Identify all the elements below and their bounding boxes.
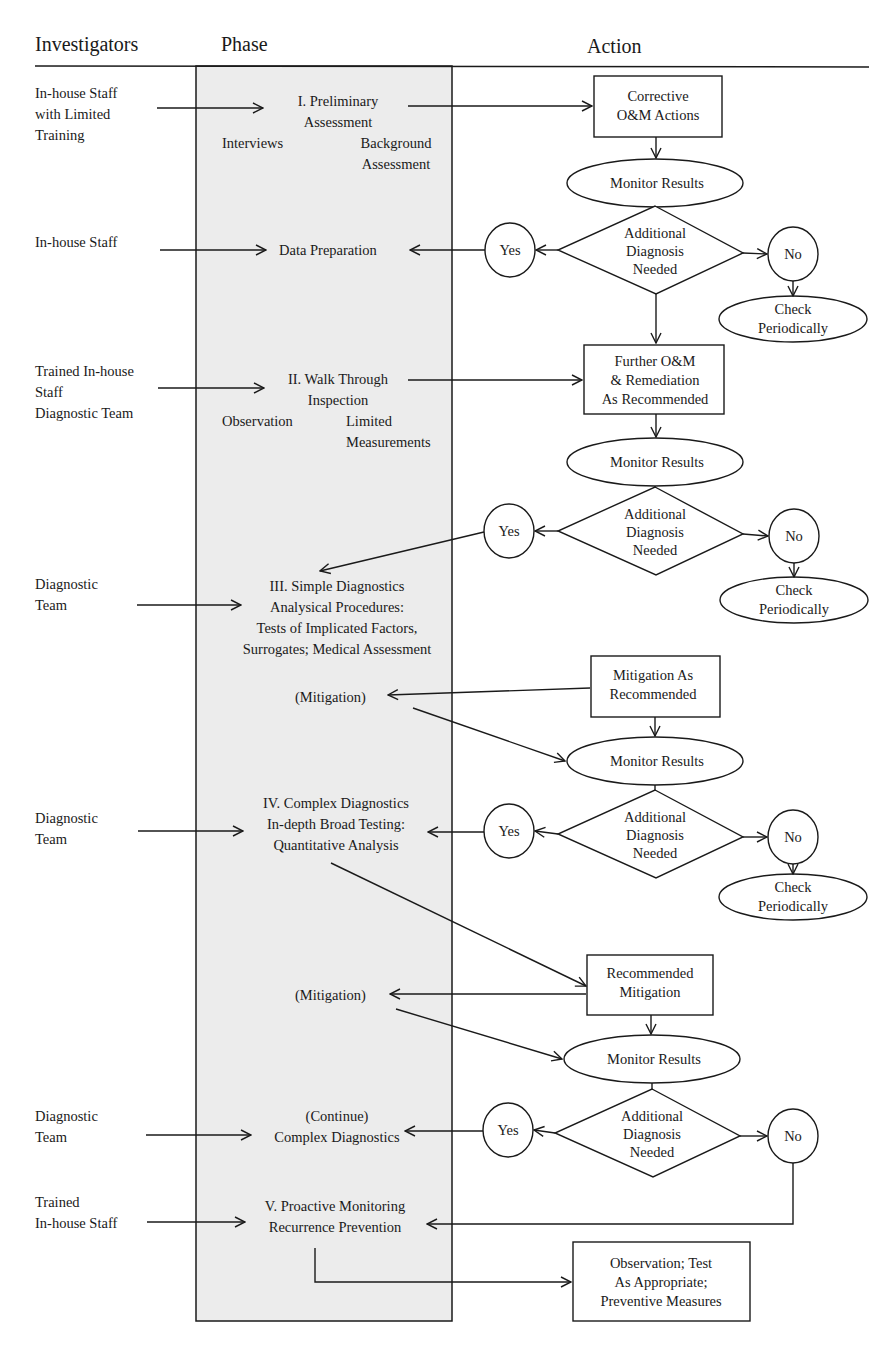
action-box-recommended: Recommended Mitigation	[607, 964, 694, 1002]
arrow-to-no	[743, 253, 767, 254]
phase-1-interviews: Interviews	[222, 133, 283, 154]
phase-line: Measurements	[346, 432, 431, 453]
yes-label: Yes	[498, 822, 519, 841]
node-line: Further O&M	[602, 352, 709, 371]
investigator-line: In-house Staff	[35, 232, 117, 253]
investigator-line: Staff	[35, 382, 134, 403]
node-line: As Appropriate;	[600, 1273, 721, 1292]
investigator-7: Trained In-house Staff	[35, 1192, 117, 1234]
phase-line: II. Walk Through	[288, 369, 388, 390]
investigator-line: Diagnostic	[35, 574, 98, 595]
node-line: Check	[758, 878, 828, 897]
investigator-line: Diagnostic	[35, 808, 98, 829]
phase-5: V. Proactive Monitoring Recurrence Preve…	[265, 1196, 405, 1238]
phase-line: Background	[361, 133, 432, 154]
header-investigators: Investigators	[35, 32, 138, 56]
node-line: Recommended	[607, 964, 694, 983]
node-line: Yes	[498, 522, 519, 541]
investigator-2: In-house Staff	[35, 232, 117, 253]
node-line: Needed	[624, 260, 686, 278]
node-line: Needed	[624, 541, 686, 559]
investigator-line: Diagnostic	[35, 1106, 98, 1127]
phase-line: Tests of Implicated Factors,	[243, 618, 431, 639]
no-label: No	[784, 245, 802, 264]
action-box-further: Further O&M & Remediation As Recommended	[602, 352, 709, 409]
phase-line: Inspection	[288, 390, 388, 411]
node-line: No	[784, 1127, 802, 1146]
check-periodically-label: CheckPeriodically	[759, 581, 829, 619]
node-line: Monitor Results	[610, 752, 704, 771]
investigator-1: In-house Staff with Limited Training	[35, 83, 117, 146]
node-line: Mitigation As	[610, 666, 697, 685]
phase-line: (Continue)	[274, 1106, 399, 1127]
monitor-results-label: Monitor Results	[610, 752, 704, 771]
monitor-results-label: Monitor Results	[610, 453, 704, 472]
arrow-to-no	[743, 534, 768, 536]
node-line: Additional	[621, 1107, 683, 1125]
header-action: Action	[587, 34, 641, 58]
node-line: Yes	[498, 822, 519, 841]
phase-data-preparation: Data Preparation	[279, 240, 377, 261]
no-label: No	[784, 1127, 802, 1146]
node-line: Check	[759, 581, 829, 600]
monitor-results-label: Monitor Results	[607, 1050, 701, 1069]
header-phase: Phase	[221, 32, 268, 56]
phase-line: Recurrence Prevention	[265, 1217, 405, 1238]
node-line: Additional	[624, 505, 686, 523]
decision-label: AdditionalDiagnosisNeeded	[624, 224, 686, 278]
phase-mitigation-2: (Mitigation)	[295, 985, 366, 1006]
phase-line: IV. Complex Diagnostics	[263, 793, 409, 814]
node-line: Diagnosis	[624, 242, 686, 260]
decision-label: AdditionalDiagnosisNeeded	[624, 505, 686, 559]
node-line: Corrective	[617, 87, 700, 106]
node-line: Observation; Test	[600, 1254, 721, 1273]
investigator-line: In-house Staff	[35, 83, 117, 104]
no-label: No	[784, 828, 802, 847]
phase-line: Surrogates; Medical Assessment	[243, 639, 431, 660]
investigator-line: with Limited	[35, 104, 117, 125]
arrow-to-yes	[534, 1130, 555, 1133]
phase-line: Limited	[346, 411, 431, 432]
node-line: Monitor Results	[610, 174, 704, 193]
node-line: O&M Actions	[617, 106, 700, 125]
node-line: No	[784, 245, 802, 264]
phase-1-background: Background Assessment	[361, 133, 432, 175]
node-line: & Remediation	[602, 371, 709, 390]
check-periodically-label: CheckPeriodically	[758, 878, 828, 916]
node-line: Diagnosis	[624, 523, 686, 541]
node-line: As Recommended	[602, 390, 709, 409]
header-divider	[35, 66, 869, 67]
arrow-to-yes	[535, 831, 558, 834]
investigator-3: Trained In-house Staff Diagnostic Team	[35, 361, 134, 424]
investigator-line: In-house Staff	[35, 1213, 117, 1234]
decision-label: AdditionalDiagnosisNeeded	[624, 808, 686, 862]
phase-2-observation: Observation	[222, 411, 293, 432]
node-line: Periodically	[758, 897, 828, 916]
node-line: Recommended	[610, 685, 697, 704]
phase-line: Analysical Procedures:	[243, 597, 431, 618]
action-box-corrective: Corrective O&M Actions	[617, 87, 700, 125]
node-line: Preventive Measures	[600, 1292, 721, 1311]
phase-line: In-depth Broad Testing:	[263, 814, 409, 835]
monitor-results-label: Monitor Results	[610, 174, 704, 193]
phase-line: Assessment	[298, 112, 379, 133]
node-line: Mitigation	[607, 983, 694, 1002]
yes-label: Yes	[497, 1121, 518, 1140]
yes-label: Yes	[499, 241, 520, 260]
investigator-4: Diagnostic Team	[35, 574, 98, 616]
phase-line: Quantitative Analysis	[263, 835, 409, 856]
action-box-observation: Observation; Test As Appropriate; Preven…	[600, 1254, 721, 1311]
investigator-line: Team	[35, 829, 98, 850]
phase-mitigation-1: (Mitigation)	[295, 687, 366, 708]
investigator-line: Diagnostic Team	[35, 403, 134, 424]
phase-2-limited: Limited Measurements	[346, 411, 431, 453]
node-line: Monitor Results	[607, 1050, 701, 1069]
yes-label: Yes	[498, 522, 519, 541]
node-line: Diagnosis	[621, 1125, 683, 1143]
phase-line: Assessment	[361, 154, 432, 175]
investigator-line: Trained	[35, 1192, 117, 1213]
decision-label: AdditionalDiagnosisNeeded	[621, 1107, 683, 1161]
node-line: Additional	[624, 808, 686, 826]
phase-continue: (Continue) Complex Diagnostics	[274, 1106, 399, 1148]
investigator-line: Trained In-house	[35, 361, 134, 382]
